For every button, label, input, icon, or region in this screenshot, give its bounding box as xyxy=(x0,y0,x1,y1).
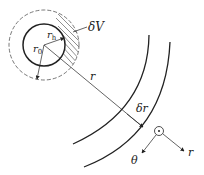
deltav-leader xyxy=(73,27,87,32)
label-r-axis: r xyxy=(188,146,194,159)
hatched-volume-element xyxy=(56,10,80,72)
theta-arrow xyxy=(142,135,156,153)
label-r: r xyxy=(90,70,96,83)
label-r0: r0 xyxy=(33,43,42,56)
diagram-svg: δV rh r0 r δr θ r xyxy=(0,0,204,175)
r-axis-arrow xyxy=(163,134,184,151)
label-theta: θ xyxy=(131,154,138,167)
inner-arc xyxy=(73,35,149,144)
outer-arc xyxy=(84,42,170,167)
diagram: δV rh r0 r δr θ r xyxy=(0,0,204,175)
label-delta-r: δr xyxy=(136,102,149,115)
deltar-arrow xyxy=(127,114,143,127)
label-delta-v: δV xyxy=(88,20,105,34)
dot-icon xyxy=(158,130,160,132)
label-rh: rh xyxy=(47,29,57,42)
